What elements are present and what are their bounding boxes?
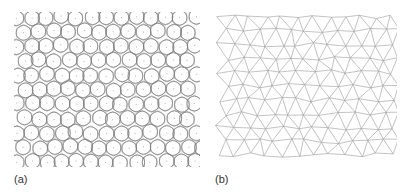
circle-packing-plot [14,12,200,167]
triangulation-mesh-plot [215,12,397,160]
panel-a-label: (a) [14,173,27,185]
panel-a-circle-packing [14,12,200,167]
panel-b-label: (b) [215,173,228,185]
panel-b-triangulation-mesh [215,12,397,160]
